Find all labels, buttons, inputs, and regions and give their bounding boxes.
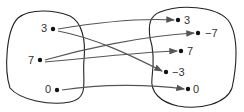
codomain-label-7: 7 [187,46,193,57]
domain-label-7: 7 [28,55,34,66]
arrow-3-to-neg3 [58,31,162,71]
codomain-label-neg7: −7 [205,28,218,39]
codomain-label-3: 3 [184,15,190,26]
codomain-label-0: 0 [193,84,199,95]
codomain-label-neg3: −3 [172,67,185,78]
domain-label-3: 3 [41,23,47,34]
arrow-7-to-neg7 [45,33,194,60]
domain-label-0: 0 [45,84,51,95]
mapping-diagram [0,0,244,112]
arrow-3-to-3 [58,19,174,29]
arrow-7-to-7 [45,51,177,62]
arrow-0-to-0 [62,85,184,90]
arrows [45,19,194,90]
